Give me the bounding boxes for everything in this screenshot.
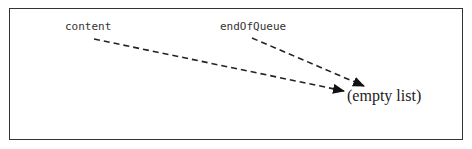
arrow-end-of-queue-to-empty-list bbox=[252, 38, 364, 86]
arrows-layer bbox=[0, 0, 472, 149]
arrow-content-to-empty-list bbox=[94, 39, 344, 91]
